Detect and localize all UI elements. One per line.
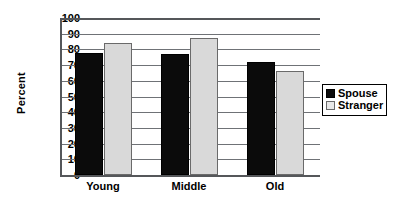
plot-area: [60, 18, 320, 177]
gridline: [62, 34, 320, 35]
legend-item: Spouse: [326, 88, 383, 99]
x-axis-tick-label: Young: [63, 180, 143, 192]
legend-item-label: Spouse: [338, 88, 378, 99]
legend-item: Stranger: [326, 100, 383, 111]
gridline: [62, 128, 320, 129]
white-square-icon: [326, 101, 335, 110]
black-square-icon: [326, 89, 335, 98]
gridline: [62, 49, 320, 50]
gridline: [62, 81, 320, 82]
gridline: [62, 97, 320, 98]
legend: Spouse Stranger: [322, 84, 387, 116]
gridline: [62, 112, 320, 113]
gridline: [62, 65, 320, 66]
x-axis-tick-label: Middle: [149, 180, 229, 192]
gridline: [62, 144, 320, 145]
legend-item-label: Stranger: [338, 100, 383, 111]
gridline: [62, 159, 320, 160]
gridline: [62, 18, 320, 20]
bar-chart: Percent 1009080706050403020100 YoungMidd…: [0, 0, 404, 204]
x-axis-tick-label: Old: [235, 180, 315, 192]
